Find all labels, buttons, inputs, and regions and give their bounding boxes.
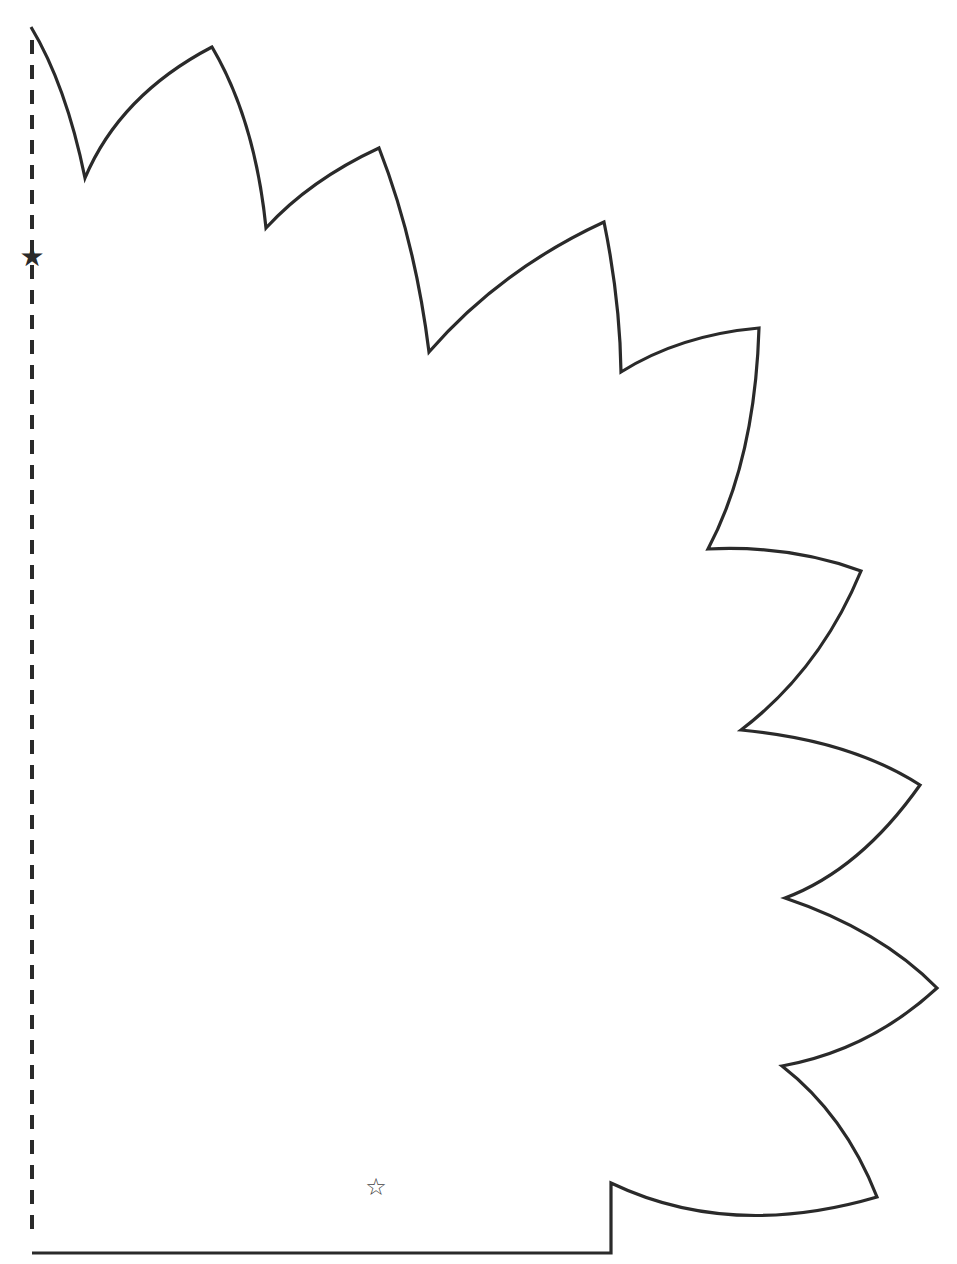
craft-template-canvas: ★ ☆ (0, 0, 957, 1264)
filled-star-icon: ★ (19, 240, 44, 273)
outline-star-icon: ☆ (365, 1173, 387, 1201)
jagged-cutout-outline (31, 27, 937, 1253)
